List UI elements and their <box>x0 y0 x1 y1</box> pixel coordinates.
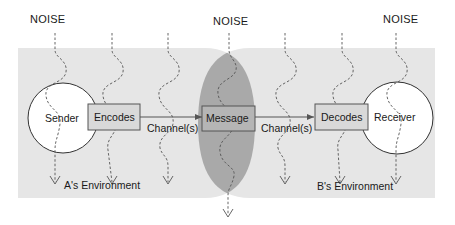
communication-model-diagram: NOISE NOISE NOISE Sender Encodes Channel… <box>0 0 455 225</box>
encodes-label: Encodes <box>94 112 135 123</box>
noise-label-left: NOISE <box>30 14 65 25</box>
environment-b-label: B's Environment <box>317 181 393 192</box>
sender-label: Sender <box>45 113 79 124</box>
message-label: Message <box>206 113 249 124</box>
channel-label-left: Channel(s) <box>147 123 198 134</box>
noise-label-center: NOISE <box>213 16 248 27</box>
channel-label-right: Channel(s) <box>261 123 312 134</box>
noise-label-right: NOISE <box>383 14 418 25</box>
decodes-label: Decodes <box>321 112 362 123</box>
environment-a-label: A's Environment <box>64 180 140 191</box>
receiver-label: Receiver <box>374 112 415 123</box>
